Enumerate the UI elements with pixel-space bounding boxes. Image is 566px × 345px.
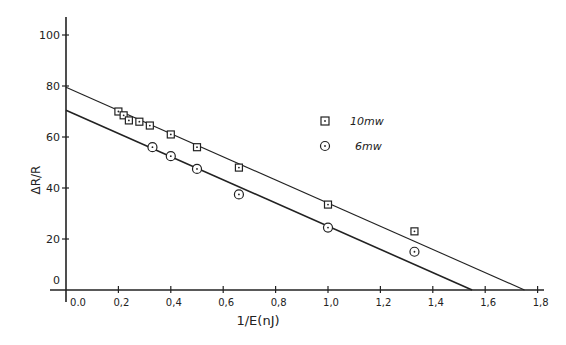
x-tick-label: 1,4 [428, 297, 444, 308]
data-point-dot [327, 227, 329, 229]
data-point-dot [123, 114, 125, 116]
y-tick-label: 60 [46, 131, 60, 144]
data-point-dot [327, 204, 329, 206]
x-tick-label: 1,2 [375, 297, 391, 308]
x-axis-label: 1/E(nJ) [236, 313, 279, 328]
x-tick-label: 1,8 [533, 297, 549, 308]
legend-dot [324, 145, 326, 147]
y-axis-label: ΔR/R [29, 166, 43, 195]
data-point-dot [138, 121, 140, 123]
data-point-dot [238, 167, 240, 169]
data-point-dot [149, 125, 151, 127]
data-point-dot [196, 146, 198, 148]
data-point-dot [238, 193, 240, 195]
y-tick-label: 100 [39, 29, 60, 42]
data-point-dot [414, 251, 416, 253]
data-point-dot [196, 168, 198, 170]
x-tick-label: 0.0 [70, 297, 86, 308]
fit-line-10mw [66, 87, 525, 290]
x-tick-label: 0,4 [166, 297, 182, 308]
chart-container: 0204060801000.00,20,40,60,81,01,21,41,61… [0, 0, 566, 345]
scatter-chart: 0204060801000.00,20,40,60,81,01,21,41,61… [0, 0, 566, 345]
data-point-dot [170, 155, 172, 157]
fit-line-6mw [66, 110, 472, 290]
legend-label: 6mw [355, 140, 382, 153]
data-point-dot [118, 111, 120, 113]
data-point-dot [128, 120, 130, 122]
legend-label: 10mw [350, 115, 384, 128]
legend-dot [324, 120, 326, 122]
x-tick-label: 0,6 [218, 297, 234, 308]
x-tick-label: 1,6 [480, 297, 496, 308]
data-point-dot [170, 134, 172, 136]
data-point-dot [414, 230, 416, 232]
y-tick-label: 20 [46, 233, 60, 246]
y-tick-label: 80 [46, 80, 60, 93]
data-point-dot [152, 146, 154, 148]
x-tick-label: 0,2 [113, 297, 129, 308]
x-tick-label: 0,8 [271, 297, 287, 308]
y-tick-label: 40 [46, 182, 60, 195]
x-tick-label: 1,0 [323, 297, 339, 308]
y-tick-label: 0 [53, 274, 60, 287]
